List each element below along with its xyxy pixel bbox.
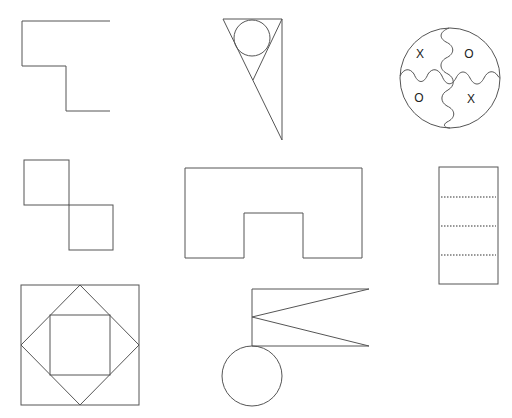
diagonal-squares-figure [24,160,113,250]
mark-x-bottom-right: X [467,92,475,106]
u-shape-figure [185,168,362,258]
mark-x-top-left: X [416,47,424,61]
mark-o-bottom-left: O [414,91,423,105]
figures-canvas: X O O X [0,0,512,418]
nested-squares-figure [21,285,139,405]
mark-o-top-right: O [464,47,473,61]
tic-tac-toe-circle-figure: X O O X [400,28,500,128]
step-line-figure [22,21,110,111]
dotted-rectangle-figure [439,167,498,284]
triangle-with-circle-figure [223,19,282,140]
flag-with-circle-figure [222,289,369,406]
